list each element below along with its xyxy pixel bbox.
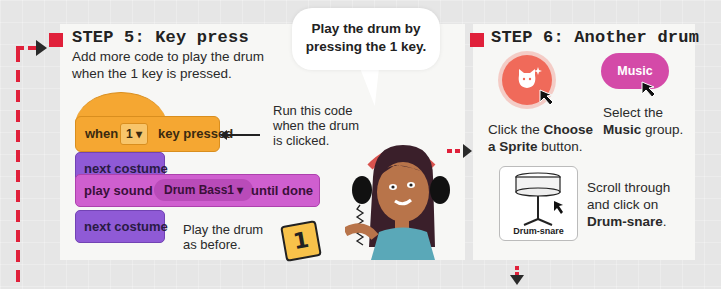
step5-intro: Add more code to play the drum when the … xyxy=(72,48,264,82)
caption-bold: Drum-snare xyxy=(587,214,663,229)
caption-text: button. xyxy=(538,139,583,154)
hat-when-label: when xyxy=(85,126,118,141)
speech-bubble-line2: pressing the 1 key. xyxy=(292,38,440,56)
caption-bold: a Sprite xyxy=(488,139,538,154)
caption-text: Scroll through xyxy=(587,179,670,196)
caption-text: and click on xyxy=(587,196,670,213)
step6-title: STEP 6: Another drum xyxy=(491,28,699,47)
caption-bold: Music xyxy=(603,122,641,137)
flow-line-top xyxy=(16,46,36,50)
caption-text: Select the xyxy=(603,104,683,121)
caption-text: Click the xyxy=(488,122,544,137)
callout-run-line2: when the drum xyxy=(273,118,359,133)
callout-play: Play the drum as before. xyxy=(183,222,263,252)
key-1-icon: 1 xyxy=(280,220,322,262)
chevron-down-icon: ▾ xyxy=(136,127,142,141)
mouse-cursor-icon xyxy=(640,80,660,100)
until-done-label: until done xyxy=(251,183,313,198)
step5-marker-icon xyxy=(49,33,63,47)
flow-arrow-down-icon xyxy=(510,275,524,285)
step5-title: STEP 5: Key press xyxy=(72,28,249,47)
next-costume-label-2: next costume xyxy=(84,219,168,234)
when-key-pressed-block[interactable]: when 1 ▾ key pressed xyxy=(75,116,220,152)
callout-run-line1: Run this code xyxy=(273,103,359,118)
flow-arrow-right-icon xyxy=(463,144,472,158)
next-costume-block-2[interactable]: next costume xyxy=(75,210,165,243)
drum-caption: Scroll through and click on Drum-snare. xyxy=(587,179,670,230)
callout-arrow-left-icon xyxy=(226,134,260,136)
callout-play-line2: as before. xyxy=(183,237,263,252)
drum-snare-icon xyxy=(500,167,579,229)
music-caption: Select the Music group. xyxy=(603,104,683,138)
play-sound-block[interactable]: play sound Drum Bass1 ▾ until done xyxy=(75,174,320,207)
key-dropdown-value: 1 xyxy=(126,127,133,141)
caption-text: . xyxy=(663,214,667,229)
girl-with-headphones-illustration xyxy=(345,137,460,260)
drum-snare-sprite-card[interactable]: Drum-snare xyxy=(499,166,578,241)
sound-dropdown-value: Drum Bass1 xyxy=(164,183,234,197)
sound-dropdown[interactable]: Drum Bass1 ▾ xyxy=(154,179,253,201)
choose-sprite-caption: Click the Choose a Sprite button. xyxy=(488,121,593,155)
speech-bubble: Play the drum by pressing the 1 key. xyxy=(292,8,440,70)
flow-arrow-right-icon xyxy=(36,40,47,56)
mouse-cursor-icon xyxy=(538,88,558,108)
chevron-down-icon: ▾ xyxy=(237,183,243,197)
step5-intro-line2: when the 1 key is pressed. xyxy=(72,65,264,82)
callout-play-line1: Play the drum xyxy=(183,222,263,237)
step5-intro-line1: Add more code to play the drum xyxy=(72,48,264,65)
flow-line-vertical xyxy=(16,50,20,289)
play-sound-label: play sound xyxy=(84,183,153,198)
caption-text: group. xyxy=(641,122,683,137)
speech-bubble-line1: Play the drum by xyxy=(292,20,440,38)
step6-marker-icon xyxy=(470,33,484,47)
caption-bold: Choose xyxy=(544,122,594,137)
key-dropdown[interactable]: 1 ▾ xyxy=(120,123,148,145)
drum-card-label: Drum-snare xyxy=(500,226,577,236)
